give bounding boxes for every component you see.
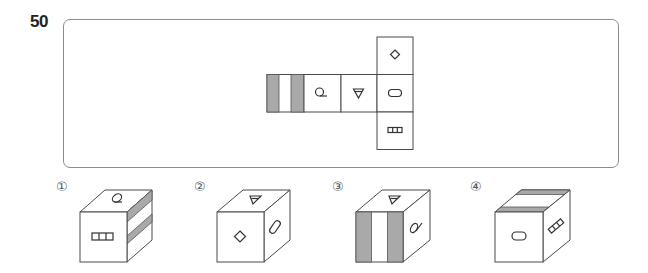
option-3-label[interactable]: ③ bbox=[332, 179, 344, 194]
net-face-loop bbox=[304, 75, 341, 113]
net-face-grid bbox=[377, 112, 413, 150]
option-2-cube[interactable] bbox=[217, 190, 290, 262]
net-face-oval bbox=[377, 75, 413, 113]
option-4-label[interactable]: ④ bbox=[470, 179, 482, 194]
option-4-cube[interactable] bbox=[495, 190, 570, 262]
net-face-stripes bbox=[267, 75, 304, 113]
option-2-label[interactable]: ② bbox=[194, 179, 206, 194]
net-face-diamond bbox=[377, 37, 413, 75]
option-1-cube[interactable] bbox=[80, 190, 152, 262]
option-1-label[interactable]: ① bbox=[56, 179, 68, 194]
puzzle-figure: .ln { stroke: #4a4a4a; stroke-width: 1; … bbox=[0, 0, 648, 273]
option-3-cube[interactable] bbox=[356, 190, 430, 262]
net-face-triangle bbox=[341, 75, 377, 113]
cube-net bbox=[267, 37, 413, 150]
